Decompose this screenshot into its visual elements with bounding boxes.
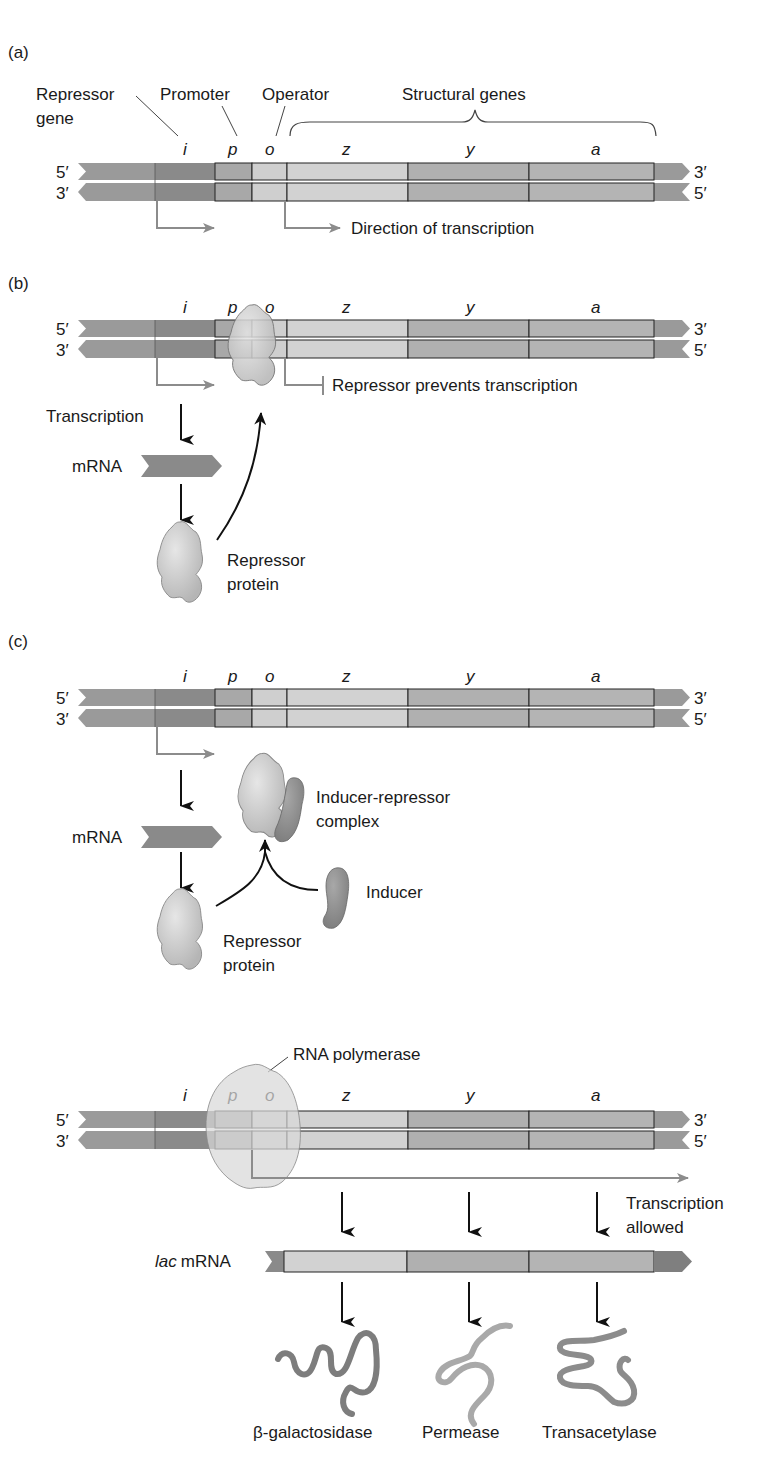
svg-text:i: i <box>183 1086 188 1105</box>
svg-text:5′: 5′ <box>694 710 707 729</box>
panel-a-label: (a) <box>8 43 29 62</box>
repressor-gene-callout-line2: gene <box>36 109 74 128</box>
inducer-label: Inducer <box>366 883 423 902</box>
transcription-allowed-label-line1: Transcription <box>626 1194 724 1213</box>
svg-text:3′: 3′ <box>56 710 69 729</box>
repressor-protein-label-c-line1: Repressor <box>223 932 302 951</box>
svg-text:a: a <box>591 667 600 686</box>
svg-text:5′: 5′ <box>694 341 707 360</box>
repressor-transcription-arrow-b <box>157 358 214 385</box>
svg-text:3′: 3′ <box>694 689 707 708</box>
repressor-to-complex-curve <box>216 852 265 906</box>
panel-c: (c) i p o z y a 5′ 3′ 3′ 5′ Inducer-repr… <box>8 632 707 975</box>
transcription-allowed-arrow <box>252 1150 688 1178</box>
lac-mrna-y <box>407 1251 529 1272</box>
repressor-protein-label-b-line2: protein <box>227 575 279 594</box>
repressor-prevents-transcription-label: Repressor prevents transcription <box>332 376 578 395</box>
inducer-to-complex-curve <box>265 852 318 890</box>
svg-text:z: z <box>341 140 351 159</box>
svg-text:p: p <box>227 667 237 686</box>
rna-polymerase-label: RNA polymerase <box>293 1045 421 1064</box>
mrna-strand-c <box>141 826 222 848</box>
svg-text:3′: 3′ <box>694 320 707 339</box>
operon-dna-c: 5′ 3′ 3′ 5′ <box>56 689 707 729</box>
svg-text:a: a <box>591 298 600 317</box>
svg-text:i: i <box>183 140 188 159</box>
lac-mrna-leader <box>265 1251 284 1272</box>
rna-polymerase <box>206 1064 300 1188</box>
repressor-protein-label-c-line2: protein <box>223 956 275 975</box>
svg-text:3′: 3′ <box>694 1111 707 1130</box>
svg-text:3′: 3′ <box>56 184 69 203</box>
repressor-transcription-arrow-c <box>157 727 214 754</box>
operon-dna-a: 5′ 3′ 3′ 5′ <box>56 163 707 203</box>
repressor-protein-b <box>157 522 202 603</box>
svg-text:o: o <box>265 140 274 159</box>
promoter-callout: Promoter <box>160 85 230 104</box>
product-label-permease: Permease <box>422 1423 499 1442</box>
lac-mrna-trailer <box>654 1251 692 1272</box>
lac-mrna-label: lacmRNA <box>155 1252 231 1271</box>
mrna-label-c: mRNA <box>72 828 123 847</box>
inducer-molecule <box>323 868 348 929</box>
svg-text:y: y <box>465 140 476 159</box>
operon-transcription-arrow-a <box>285 201 340 228</box>
transcription-allowed-label-line2: allowed <box>626 1218 684 1237</box>
direction-of-transcription-label: Direction of transcription <box>351 219 534 238</box>
beta-galactosidase-protein <box>278 1333 377 1414</box>
svg-text:5′: 5′ <box>694 1132 707 1151</box>
svg-text:5′: 5′ <box>56 1111 69 1130</box>
repressor-binds-operator-arrow <box>217 413 261 540</box>
svg-text:p: p <box>227 140 237 159</box>
complex-label-line1: Inducer-repressor <box>316 788 451 807</box>
permease-protein <box>438 1326 510 1424</box>
svg-text:3′: 3′ <box>56 1132 69 1151</box>
blocked-transcription-line <box>285 358 322 385</box>
lac-mrna-z <box>284 1251 407 1272</box>
svg-text:o: o <box>265 667 274 686</box>
lac-mrna-a <box>529 1251 654 1272</box>
operator-leader <box>276 106 285 136</box>
promoter-leader <box>222 106 237 136</box>
operator-callout: Operator <box>262 85 329 104</box>
svg-text:z: z <box>341 1086 351 1105</box>
product-label-beta-galactosidase: β-galactosidase <box>253 1423 372 1442</box>
panel-d: RNA polymerase i p o z y a 5′ 3′ 3′ 5′ T… <box>56 1045 724 1442</box>
svg-text:3′: 3′ <box>56 341 69 360</box>
repressor-protein-label-b-line1: Repressor <box>227 551 306 570</box>
transacetylase-protein <box>560 1331 634 1404</box>
panel-b: (b) i p o z y a 5′ 3′ 3′ 5′ Repressor pr… <box>8 274 707 602</box>
operon-dna-d: 5′ 3′ 3′ 5′ <box>56 1111 707 1151</box>
svg-text:y: y <box>465 1086 476 1105</box>
panel-a: (a) Repressor gene Promoter Operator Str… <box>8 43 707 238</box>
svg-text:a: a <box>591 1086 600 1105</box>
mrna-strand-b <box>141 455 222 477</box>
repressor-gene-callout-line1: Repressor <box>36 85 115 104</box>
svg-text:5′: 5′ <box>56 163 69 182</box>
svg-text:5′: 5′ <box>56 689 69 708</box>
mrna-label-b: mRNA <box>72 457 123 476</box>
svg-text:5′: 5′ <box>694 184 707 203</box>
gene-labels-a: i p o z y a <box>183 140 600 159</box>
lac-operon-diagram: (a) Repressor gene Promoter Operator Str… <box>0 0 765 1460</box>
svg-text:5′: 5′ <box>56 320 69 339</box>
operon-dna-b: 5′ 3′ 3′ 5′ <box>56 320 707 360</box>
complex-label-line2: complex <box>316 812 380 831</box>
gene-labels-c: i p o z y a <box>183 667 600 686</box>
panel-c-label: (c) <box>8 632 28 651</box>
svg-text:y: y <box>465 667 476 686</box>
svg-text:p: p <box>227 298 237 317</box>
svg-text:y: y <box>465 298 476 317</box>
product-label-transacetylase: Transacetylase <box>542 1423 657 1442</box>
repressor-protein-c <box>157 889 202 970</box>
repressor-transcription-arrow-a <box>157 201 214 228</box>
svg-text:i: i <box>183 298 188 317</box>
svg-text:a: a <box>591 140 600 159</box>
transcription-label: Transcription <box>46 407 144 426</box>
panel-b-label: (b) <box>8 274 29 293</box>
svg-text:i: i <box>183 667 188 686</box>
svg-text:z: z <box>341 667 351 686</box>
structural-genes-callout: Structural genes <box>402 85 526 104</box>
svg-text:z: z <box>341 298 351 317</box>
svg-text:3′: 3′ <box>694 163 707 182</box>
